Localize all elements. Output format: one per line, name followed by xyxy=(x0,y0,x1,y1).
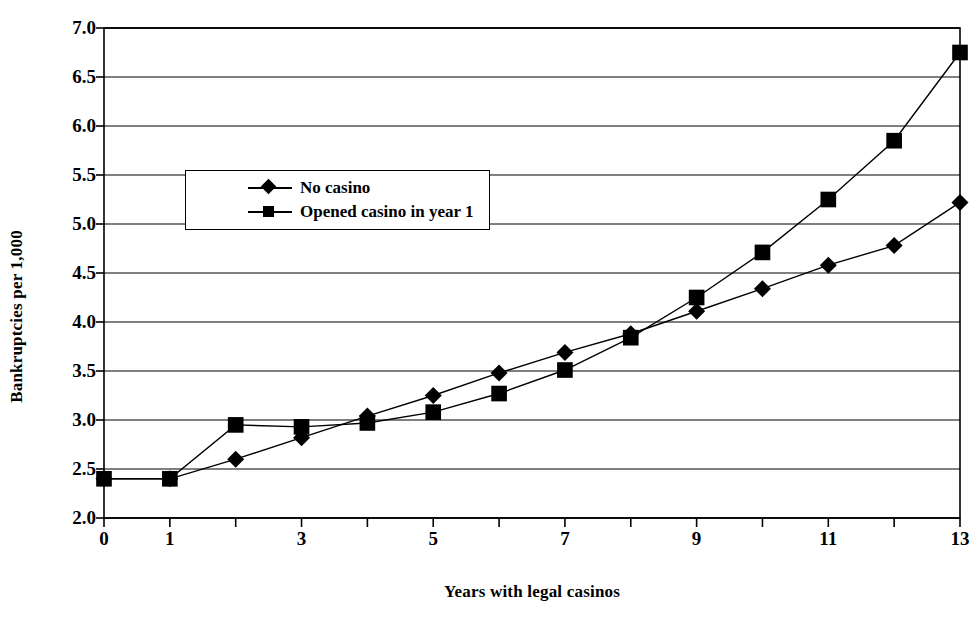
series-line-0 xyxy=(104,202,960,478)
data-point-1-2 xyxy=(228,417,244,433)
data-point-0-6 xyxy=(491,364,508,381)
data-point-1-3 xyxy=(294,419,310,435)
y-tick-label-3: 3.5 xyxy=(38,361,96,380)
y-tick-label-2: 3.0 xyxy=(38,410,96,429)
legend-item-opened-casino: Opened casino in year 1 xyxy=(186,200,489,224)
y-tick-label-0: 2.0 xyxy=(38,508,96,527)
legend-item-no-casino: No casino xyxy=(186,176,489,200)
x-tick-label-6: 11 xyxy=(808,528,848,550)
data-point-0-7 xyxy=(556,344,573,361)
x-tick-label-4: 7 xyxy=(545,528,585,550)
data-point-1-8 xyxy=(623,330,639,346)
plot-area xyxy=(104,28,960,518)
data-point-1-0 xyxy=(96,471,112,487)
data-point-1-13 xyxy=(952,45,968,61)
data-point-0-5 xyxy=(425,387,442,404)
data-point-0-10 xyxy=(754,280,771,297)
data-point-0-2 xyxy=(227,451,244,468)
diamond-marker-icon xyxy=(248,180,292,196)
data-point-1-10 xyxy=(755,245,771,261)
data-point-0-13 xyxy=(952,194,969,211)
x-axis-tick-labels: 0135791113 xyxy=(104,528,960,558)
y-tick-label-4: 4.0 xyxy=(38,312,96,331)
x-tick-label-1: 1 xyxy=(150,528,190,550)
x-tick-label-7: 13 xyxy=(940,528,974,550)
x-axis-title: Years with legal casinos xyxy=(104,582,960,602)
data-point-1-7 xyxy=(557,362,573,378)
square-marker-icon xyxy=(248,204,292,220)
data-point-0-12 xyxy=(886,237,903,254)
data-point-1-1 xyxy=(162,471,178,487)
y-tick-label-8: 6.0 xyxy=(38,116,96,135)
legend-label-series-1: Opened casino in year 1 xyxy=(300,202,473,222)
data-point-1-11 xyxy=(820,192,836,208)
data-point-0-11 xyxy=(820,257,837,274)
y-tick-label-9: 6.5 xyxy=(38,67,96,86)
data-point-1-4 xyxy=(360,415,376,431)
chart-figure: Bankruptcies per 1,000 2.02.53.03.54.04.… xyxy=(0,0,974,633)
y-tick-label-7: 5.5 xyxy=(38,165,96,184)
y-tick-label-5: 4.5 xyxy=(38,263,96,282)
plot-svg xyxy=(104,28,960,518)
data-point-1-12 xyxy=(886,133,902,149)
data-point-1-6 xyxy=(491,386,507,402)
y-tick-label-10: 7.0 xyxy=(38,18,96,37)
y-tick-label-6: 5.0 xyxy=(38,214,96,233)
x-tick-label-5: 9 xyxy=(677,528,717,550)
data-point-1-5 xyxy=(425,404,441,420)
x-tick-label-0: 0 xyxy=(84,528,124,550)
legend-label-series-0: No casino xyxy=(300,178,370,198)
x-tick-label-2: 3 xyxy=(282,528,322,550)
data-point-1-9 xyxy=(689,290,705,306)
x-tick-label-3: 5 xyxy=(413,528,453,550)
y-axis-tick-labels: 2.02.53.03.54.04.55.05.56.06.57.0 xyxy=(22,28,96,518)
chart-legend: No casino Opened casino in year 1 xyxy=(185,170,490,230)
y-tick-label-1: 2.5 xyxy=(38,459,96,478)
